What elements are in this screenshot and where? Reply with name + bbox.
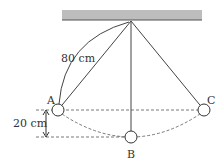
label-b: B: [127, 148, 135, 161]
label-a: A: [46, 94, 56, 107]
ball-b: [125, 131, 137, 143]
label-c: C: [207, 94, 215, 107]
height-label: 20 cm: [13, 117, 48, 130]
pendulum-diagram: A B C 80 cm 20 cm: [0, 0, 224, 166]
ceiling: [62, 10, 202, 20]
string-to-c: [131, 21, 204, 110]
length-label: 80 cm: [61, 52, 96, 65]
